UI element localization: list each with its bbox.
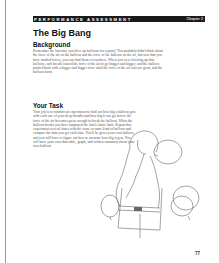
chapter-label: Chapter 2 [186, 17, 205, 21]
balloon-illustration [100, 128, 219, 248]
background-heading: Background [33, 41, 70, 48]
background-paragraph: Remember the last time you blew up ballo… [33, 49, 165, 75]
section-header-bar: PERFORMANCE ASSESSMENT Chapter 2 [33, 16, 205, 22]
section-label: PERFORMANCE ASSESSMENT [33, 17, 132, 22]
page-edge-line [5, 0, 6, 263]
task-heading: Your Task [33, 102, 63, 109]
page-title: The Big Bang [33, 28, 91, 38]
page-number: 77 [195, 251, 200, 256]
